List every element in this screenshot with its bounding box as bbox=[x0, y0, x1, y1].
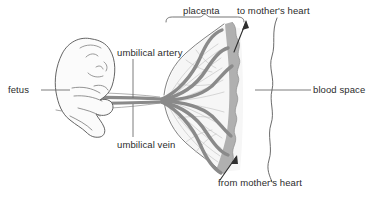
label-to-mothers-heart: to mother's heart bbox=[237, 5, 310, 16]
label-umbilical-vein: umbilical vein bbox=[117, 139, 175, 150]
label-from-mothers-heart: from mother's heart bbox=[218, 177, 302, 188]
label-fetus: fetus bbox=[8, 84, 29, 95]
label-placenta: placenta bbox=[183, 5, 220, 16]
label-blood-space: blood space bbox=[313, 84, 365, 95]
label-umbilical-artery: umbilical artery bbox=[117, 47, 182, 58]
diagram-canvas bbox=[0, 0, 373, 199]
uterine-wall-outline bbox=[268, 18, 277, 182]
fetal-circulation-diagram: fetus umbilical artery umbilical vein pl… bbox=[0, 0, 373, 199]
